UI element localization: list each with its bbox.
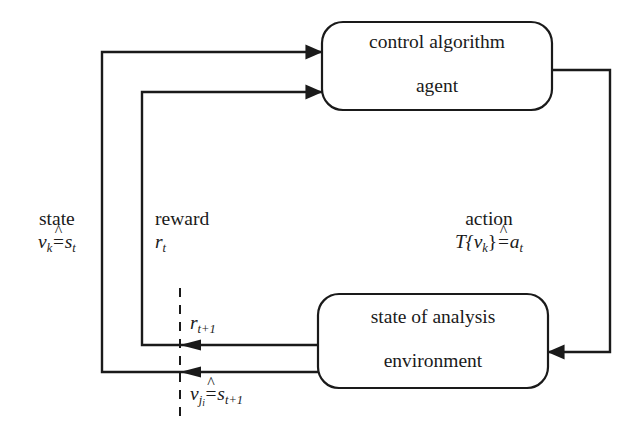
action-edge-formula: T{vk}^=at bbox=[455, 231, 523, 252]
agent-box-label: control algorithm agent bbox=[322, 32, 552, 97]
state-edge-arrowhead bbox=[180, 367, 201, 378]
corresponds-icon: ^= bbox=[52, 230, 65, 253]
state-edge-formula: vk^=st bbox=[38, 231, 76, 252]
state-next-formula: vji^=st+1 bbox=[190, 383, 243, 404]
state-next-annotation: vji^=st+1 bbox=[190, 382, 243, 405]
action-edge-path bbox=[548, 70, 610, 352]
environment-box-line1: state of analysis bbox=[318, 307, 548, 327]
reward-edge-formula: rt bbox=[155, 231, 166, 252]
action-edge-label: action T{vk}^=at bbox=[455, 207, 523, 253]
reward-edge-label: reward rt bbox=[155, 207, 209, 253]
corresponds-icon: ^= bbox=[497, 230, 510, 253]
state-edge-label: state vk^=st bbox=[38, 207, 76, 253]
environment-box-line2: environment bbox=[318, 351, 548, 371]
diagram-canvas: control algorithm agent state of analysi… bbox=[0, 0, 644, 444]
reward-next-annotation: rt+1 bbox=[190, 311, 216, 334]
environment-box-label: state of analysis environment bbox=[318, 307, 548, 372]
agent-box-line1: control algorithm bbox=[322, 32, 552, 52]
reward-edge-word: reward bbox=[155, 208, 209, 229]
agent-box-line2: agent bbox=[322, 76, 552, 96]
reward-edge-arrowhead bbox=[180, 340, 201, 351]
corresponds-icon: ^= bbox=[205, 382, 218, 405]
reward-next-formula: rt+1 bbox=[190, 312, 216, 333]
